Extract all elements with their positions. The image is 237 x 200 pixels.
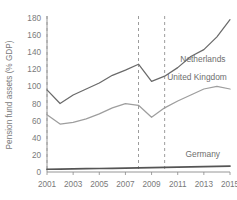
y-tick-label: 160: [27, 31, 41, 40]
y-tick-label: 140: [27, 48, 41, 57]
x-tick-label: 2009: [142, 180, 161, 189]
x-tick-label: 2007: [116, 180, 135, 189]
y-tick-label: 60: [32, 117, 42, 126]
x-tick-label: 2001: [38, 180, 57, 189]
y-tick-label: 20: [32, 151, 42, 160]
y-tick-label: 180: [27, 14, 41, 23]
pension-fund-assets-chart: Pension fund assets (% GDP)0204060801001…: [0, 0, 237, 200]
x-tick-label: 2005: [90, 180, 109, 189]
x-tick-label: 2013: [195, 180, 214, 189]
series-label-united-kingdom: United Kingdom: [167, 72, 227, 82]
series-label-germany: Germany: [186, 149, 221, 159]
y-tick-label: 120: [27, 65, 41, 74]
y-tick-label: 40: [32, 134, 42, 143]
y-axis-title: Pension fund assets (% GDP): [5, 40, 14, 149]
x-tick-label: 2015: [221, 180, 237, 189]
x-tick-label: 2003: [64, 180, 83, 189]
x-tick-label: 2011: [169, 180, 187, 189]
y-tick-label: 80: [32, 100, 42, 109]
series-label-netherlands: Netherlands: [180, 54, 225, 64]
y-tick-label: 100: [27, 82, 41, 91]
chart-plot-area: Pension fund assets (% GDP)0204060801001…: [0, 0, 237, 200]
y-tick-label: 0: [36, 168, 41, 177]
